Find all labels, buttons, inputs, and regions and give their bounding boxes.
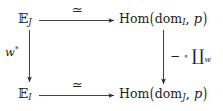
second-arg-bottom: p [194, 86, 202, 101]
arrow-right-label: − ∘ ∐w [170, 48, 211, 64]
composition-circle-icon: ∘ [184, 51, 188, 61]
separator-top: , [186, 11, 190, 26]
dom-base-top: dom [155, 11, 182, 26]
node-bottom-left: 𝔼I [18, 87, 32, 102]
node-top-left: 𝔼J [18, 12, 32, 27]
commutative-diagram: 𝔼J Hom(domI, p) 𝔼I Hom(domJ, p) ≃ ≃ w* −… [0, 0, 223, 111]
second-arg-top: p [194, 11, 202, 26]
dom-base-bottom: dom [155, 86, 182, 101]
minus-icon: − [170, 49, 180, 63]
node-bottom-left-base: 𝔼 [18, 85, 28, 101]
coproduct-subscript: w [205, 55, 212, 64]
left-label-superscript: * [15, 45, 19, 54]
node-top-left-subscript: J [28, 17, 31, 27]
arrow-bottom-label: ≃ [72, 78, 83, 91]
hom-operator-top: Hom [119, 11, 149, 26]
coproduct-icon: ∐ [192, 46, 205, 65]
close-paren-top: ) [202, 11, 208, 28]
simeq-icon-top: ≃ [72, 2, 83, 17]
arrow-top-label: ≃ [72, 3, 83, 16]
separator-bottom: , [186, 86, 190, 101]
close-paren-bottom: ) [202, 86, 208, 103]
left-label-base: w [5, 45, 15, 59]
open-paren-bottom: ( [149, 86, 155, 103]
arrow-left-label: w* [5, 46, 19, 58]
node-bottom-right: Hom(domJ, p) [119, 87, 208, 102]
node-bottom-left-subscript: I [28, 92, 31, 102]
hom-operator-bottom: Hom [119, 86, 149, 101]
open-paren-top: ( [149, 11, 155, 28]
simeq-icon-bottom: ≃ [72, 77, 83, 92]
node-top-left-base: 𝔼 [18, 10, 28, 26]
node-top-right: Hom(domI, p) [119, 12, 208, 27]
